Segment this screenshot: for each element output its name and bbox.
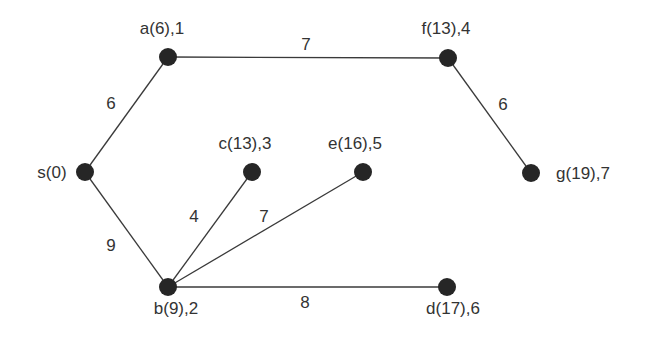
node-label-b: b(9),2	[154, 299, 198, 318]
node-d	[438, 278, 456, 296]
edge-s-a	[85, 57, 168, 172]
edge-f-g	[448, 58, 531, 173]
edge-weight-b-e: 7	[259, 207, 268, 226]
node-f	[439, 49, 457, 67]
node-c	[243, 163, 261, 181]
node-label-g: g(19),7	[556, 164, 610, 183]
edge-weight-b-c: 4	[189, 207, 198, 226]
node-label-d: d(17),6	[426, 299, 480, 318]
node-b	[159, 278, 177, 296]
node-label-s: s(0)	[37, 163, 66, 182]
edge-weight-f-g: 6	[498, 95, 507, 114]
edge-b-e	[168, 172, 363, 287]
edge-weight-a-f: 7	[301, 35, 310, 54]
edges-layer	[85, 57, 531, 287]
edge-b-c	[168, 172, 252, 287]
node-label-f: f(13),4	[421, 19, 470, 38]
node-e	[354, 163, 372, 181]
node-label-c: c(13),3	[219, 134, 272, 153]
edge-weight-s-b: 9	[106, 236, 115, 255]
node-s	[76, 163, 94, 181]
nodes-layer	[76, 48, 540, 296]
edge-weights-layer: 6769478	[106, 35, 507, 312]
node-a	[159, 48, 177, 66]
edge-s-b	[85, 172, 168, 287]
node-label-e: e(16),5	[328, 134, 382, 153]
edge-weight-s-a: 6	[106, 94, 115, 113]
node-label-a: a(6),1	[140, 19, 184, 38]
weighted-graph-diagram: 6769478 s(0)a(6),1f(13),4g(19),7c(13),3e…	[0, 0, 646, 342]
edge-a-f	[168, 57, 448, 58]
node-g	[522, 164, 540, 182]
edge-weight-b-d: 8	[300, 293, 309, 312]
